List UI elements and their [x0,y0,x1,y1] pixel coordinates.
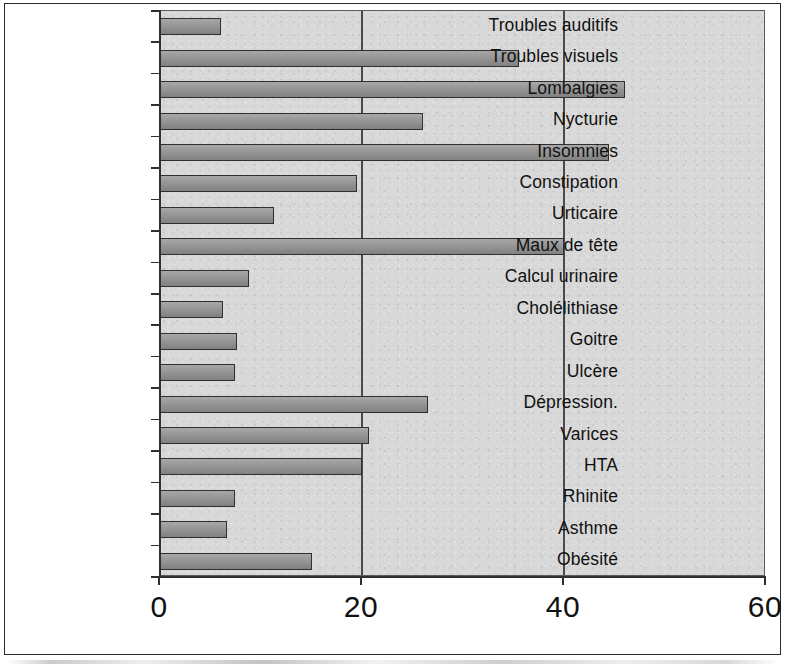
y-axis-label: Lombalgies [528,78,619,99]
bar [160,113,423,130]
y-axis-tick [151,230,159,232]
y-axis-tick [151,450,159,452]
y-axis-label: Rhinite [563,486,618,507]
y-axis-label: Asthme [558,518,618,539]
y-axis-label: Maux de tête [516,235,618,256]
y-axis-tick [151,387,159,389]
scan-artifact-strip [6,660,780,664]
y-axis-tick [151,293,159,295]
bar [160,333,237,350]
bar [160,521,227,538]
x-axis-tick-label: 60 [748,590,782,624]
y-axis-tick [151,545,159,547]
y-axis-label: Goitre [570,329,618,350]
y-axis-tick [151,104,159,106]
x-axis-tick [158,576,160,585]
x-axis-line [159,576,766,578]
y-axis-tick [151,324,159,326]
bar [160,458,362,475]
bar [160,50,519,67]
y-axis-label: Ulcère [567,361,618,382]
bar [160,238,564,255]
y-axis-tick [151,136,159,138]
y-axis-label: Nycturie [553,109,618,130]
y-axis-tick [151,199,159,201]
y-axis-tick [151,262,159,264]
y-axis-label: Cholélithiase [517,298,619,319]
y-axis-label: Troubles auditifs [489,15,618,36]
y-axis-label: Varices [560,424,618,445]
y-axis-tick [151,356,159,358]
x-axis-tick [360,576,362,585]
y-axis-tick [151,513,159,515]
bar [160,207,274,224]
x-axis-tick-label: 40 [546,590,580,624]
y-axis-tick [151,167,159,169]
bar [160,490,235,507]
y-axis-line [159,10,161,577]
x-axis-tick [562,576,564,585]
x-axis-tick-label: 20 [344,590,378,624]
y-axis-label: Troubles visuels [491,46,618,67]
y-axis-label: Urticaire [552,203,618,224]
bar [160,175,357,192]
plot-area [159,10,765,576]
bar [160,18,221,35]
y-axis-tick [151,419,159,421]
y-axis-label: Calcul urinaire [505,266,618,287]
bar [160,364,235,381]
y-axis-tick [151,41,159,43]
bar [160,396,428,413]
y-axis-label: Dépression. [524,392,618,413]
y-axis-tick [151,482,159,484]
bar [160,270,249,287]
bar [160,301,223,318]
x-axis-tick [764,576,766,585]
y-axis-label: HTA [584,455,618,476]
figure-container: Troubles auditifsTroubles visuelsLombalg… [0,0,786,665]
x-axis-tick-label: 0 [150,590,167,624]
y-axis-label: Constipation [520,172,618,193]
y-axis-label: Insomnies [537,141,618,162]
bar [160,427,369,444]
y-axis-label: Obésité [557,549,618,570]
bar [160,553,312,570]
y-axis-tick [151,73,159,75]
y-axis-tick [151,10,159,12]
